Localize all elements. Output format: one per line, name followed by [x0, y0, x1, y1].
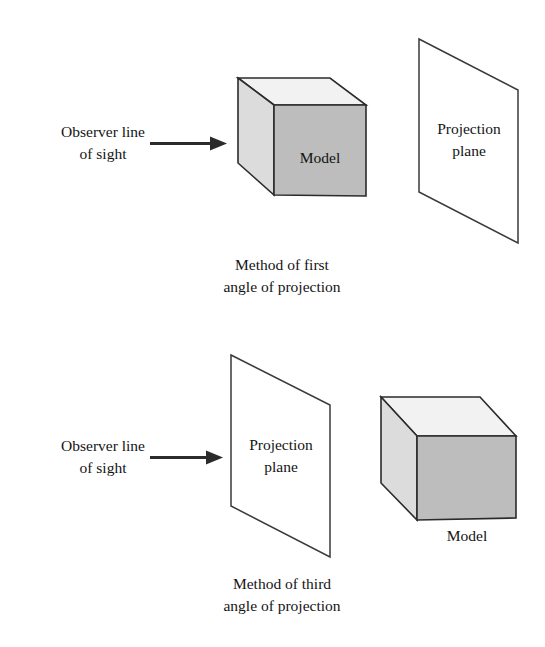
projection-plane-top-label-line2: plane: [452, 142, 486, 159]
model-cube-bottom: Model: [381, 397, 516, 544]
projection-plane-top-label-line1: Projection: [437, 120, 501, 137]
observer-label-top-line1: Observer line: [61, 123, 145, 140]
caption-first-angle-line2: angle of projection: [223, 278, 340, 295]
projection-plane-bottom: Projection plane: [231, 355, 330, 557]
model-cube-top: Model: [238, 78, 366, 196]
projection-methods-diagram: Observer line of sight Model: [0, 0, 545, 647]
sight-arrow-top: [150, 137, 227, 151]
panel-third-angle: Observer line of sight Projection plane: [61, 355, 516, 614]
observer-label-bottom: Observer line of sight: [61, 437, 145, 476]
projection-plane-top: Projection plane: [419, 39, 518, 243]
projection-plane-bottom-label-line1: Projection: [249, 436, 313, 453]
observer-label-top: Observer line of sight: [61, 123, 145, 162]
sight-arrow-bottom-head: [206, 451, 223, 465]
sight-arrow-bottom: [150, 451, 223, 465]
panel-first-angle: Observer line of sight Model: [61, 39, 518, 295]
projection-plane-bottom-shape: [231, 355, 330, 557]
caption-third-angle-line2: angle of projection: [223, 597, 340, 614]
observer-label-top-line2: of sight: [80, 145, 128, 162]
projection-plane-bottom-label-line2: plane: [264, 458, 298, 475]
observer-label-bottom-line2: of sight: [80, 459, 128, 476]
caption-first-angle-line1: Method of first: [235, 256, 330, 273]
projection-plane-top-shape: [419, 39, 518, 243]
caption-first-angle: Method of first angle of projection: [223, 256, 340, 295]
model-cube-bottom-front-face: [417, 436, 516, 520]
model-label-top: Model: [300, 149, 340, 166]
observer-label-bottom-line1: Observer line: [61, 437, 145, 454]
caption-third-angle-line1: Method of third: [233, 575, 331, 592]
caption-third-angle: Method of third angle of projection: [223, 575, 340, 614]
sight-arrow-top-head: [210, 137, 227, 151]
model-label-bottom: Model: [447, 527, 487, 544]
diagram-canvas: Observer line of sight Model: [0, 0, 545, 647]
